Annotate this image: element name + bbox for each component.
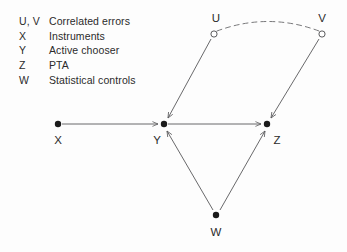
node-u xyxy=(211,31,217,37)
node-label-z: Z xyxy=(273,134,280,146)
diagram-canvas: U, V Correlated errors X Instruments Y A… xyxy=(0,0,347,252)
node-label-u: U xyxy=(212,12,220,24)
node-w xyxy=(213,212,219,218)
edge-u-v-correlation-arc xyxy=(217,22,319,32)
node-z xyxy=(264,121,270,127)
node-label-y: Y xyxy=(153,134,161,146)
node-label-v: V xyxy=(318,12,326,24)
edge-u-to-y xyxy=(168,39,211,118)
edge-layer xyxy=(62,22,319,211)
node-v xyxy=(319,31,325,37)
edge-w-to-z xyxy=(220,131,265,210)
edge-v-to-z xyxy=(271,39,319,118)
node-y xyxy=(161,121,167,127)
node-label-x: X xyxy=(54,134,62,146)
node-label-w: W xyxy=(211,226,222,238)
edge-w-to-y xyxy=(167,131,213,210)
causal-graph xyxy=(0,0,347,252)
node-x xyxy=(55,121,61,127)
node-layer xyxy=(55,31,325,218)
